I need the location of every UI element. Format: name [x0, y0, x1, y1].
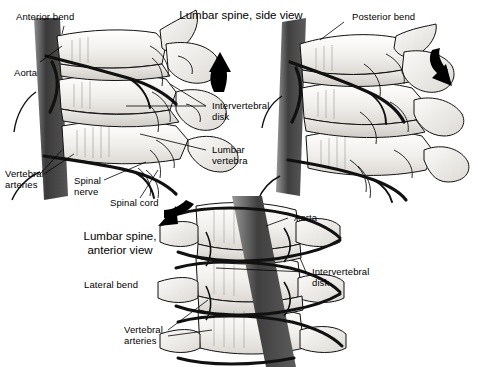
label-vertebral-arteries-top: Vertebral arteries [5, 168, 44, 190]
panel-posterior-bend-art [258, 18, 469, 202]
label-vertebral-arteries-bottom: Vertebral arteries [124, 324, 163, 346]
illustration-canvas: Anterior bend Lumbar spine, side view Po… [0, 0, 478, 367]
title-anterior-view: Lumbar spine, anterior view [60, 230, 180, 257]
label-spinal-cord: Spinal cord [110, 197, 159, 208]
label-posterior-bend: Posterior bend [352, 11, 415, 22]
title-side-view: Lumbar spine, side view [166, 9, 316, 23]
label-aorta-top: Aorta [14, 67, 37, 78]
label-anterior-bend: Anterior bend [16, 11, 74, 22]
label-intervertebral-disk-bottom: Intervertebral disk [312, 266, 369, 288]
label-aorta-bottom: Aorta [294, 212, 317, 223]
label-lumbar-vertebra: Lumbar vertebra [212, 144, 248, 166]
label-lateral-bend: Lateral bend [84, 279, 138, 290]
label-intervertebral-disk-top: Intervertebral disk [212, 100, 269, 122]
label-spinal-nerve: Spinal nerve [74, 175, 101, 197]
anatomy-artwork [0, 0, 478, 367]
